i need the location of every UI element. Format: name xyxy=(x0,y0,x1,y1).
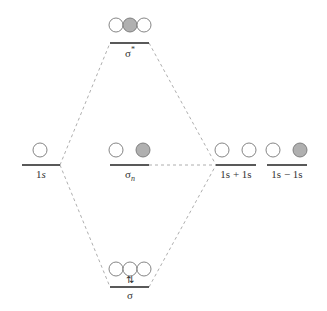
label-text: 1s + 1s xyxy=(220,168,251,180)
label-sigma-n: σn xyxy=(110,168,150,183)
label-sigma: σ xyxy=(110,289,150,301)
label-text: 1s − 1s xyxy=(271,168,302,180)
orbitals xyxy=(33,18,307,276)
mo-diagram xyxy=(0,0,327,311)
energy-levels xyxy=(22,43,307,287)
label-sub: n xyxy=(131,174,135,183)
label-1s: 1s xyxy=(22,168,60,180)
electron-arrows-icon: ⇅ xyxy=(126,274,134,285)
label-italic: s xyxy=(42,168,46,180)
label-sigma-star: σ* xyxy=(110,45,150,59)
label-text: σ xyxy=(127,289,133,301)
label-1s-plus-1s: 1s + 1s xyxy=(212,168,260,180)
electron-pair: ⇅ xyxy=(110,274,150,285)
label-1s-minus-1s: 1s − 1s xyxy=(263,168,311,180)
label-sup: * xyxy=(131,45,135,54)
